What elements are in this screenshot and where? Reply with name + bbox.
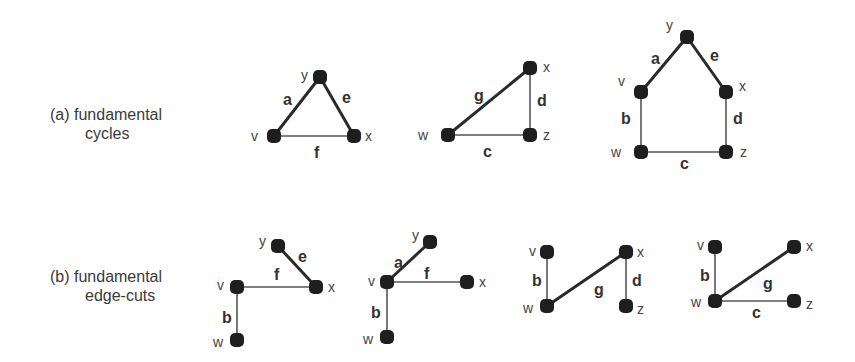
graph-cycle-3: aebdcyvxwz — [610, 17, 747, 172]
edge-e — [320, 77, 354, 136]
vertex-label-z: z — [806, 296, 813, 312]
edge-label-e: e — [710, 47, 719, 64]
vertex-y — [680, 30, 694, 44]
graph-cut-2: afbyvxw — [362, 227, 486, 347]
graphs-canvas: aefyvxgdcxwzaebdcyvxwzefbyxvwafbyvxwbgdv… — [0, 0, 855, 362]
edge-e — [687, 37, 726, 92]
edge-label-g: g — [474, 87, 484, 104]
edge-g — [547, 252, 626, 306]
vertex-label-w: w — [362, 331, 374, 347]
vertex-label-z: z — [740, 144, 747, 160]
edge-g — [448, 68, 530, 135]
vertex-y — [271, 239, 285, 253]
edge-label-c: c — [752, 304, 761, 321]
edge-label-d: d — [537, 92, 547, 109]
edge-label-a: a — [394, 254, 403, 271]
edge-label-b: b — [700, 267, 710, 284]
edge-label-c: c — [483, 143, 492, 160]
edge-label-b: b — [621, 110, 631, 127]
edge-label-f: f — [424, 265, 430, 282]
vertex-label-x: x — [479, 274, 486, 290]
vertex-label-y: y — [301, 67, 308, 83]
edge-label-e: e — [298, 248, 307, 265]
vertex-label-v: v — [618, 73, 625, 89]
vertex-label-w: w — [212, 334, 224, 350]
vertex-x — [309, 280, 323, 294]
vertex-label-v: v — [368, 273, 375, 289]
edge-a — [274, 77, 320, 136]
vertex-x — [719, 85, 733, 99]
vertex-z — [719, 145, 733, 159]
edge-label-f: f — [314, 144, 320, 161]
vertex-y — [313, 70, 327, 84]
vertex-w — [441, 128, 455, 142]
graph-cycle-2: gdcxwz — [417, 59, 550, 160]
vertex-v — [540, 245, 554, 259]
vertex-z — [787, 294, 801, 308]
vertex-v — [634, 85, 648, 99]
edge-e — [278, 246, 316, 287]
edge-label-d: d — [632, 272, 642, 289]
edge-label-e: e — [342, 89, 351, 106]
vertex-label-w: w — [417, 127, 429, 143]
vertex-label-z: z — [543, 127, 550, 143]
vertex-label-x: x — [739, 78, 746, 94]
vertex-v — [380, 275, 394, 289]
vertex-label-v: v — [529, 243, 536, 259]
vertex-v — [267, 129, 281, 143]
vertex-label-w: w — [522, 300, 534, 316]
edge-a — [641, 37, 687, 92]
vertex-x — [460, 275, 474, 289]
vertex-x — [523, 61, 537, 75]
edge-label-a: a — [283, 91, 292, 108]
vertex-label-x: x — [328, 279, 335, 295]
vertex-label-x: x — [543, 59, 550, 75]
graph-cycle-1: aefyvx — [251, 67, 372, 161]
vertex-label-x: x — [365, 128, 372, 144]
vertex-label-w: w — [610, 144, 622, 160]
vertex-x — [787, 240, 801, 254]
vertex-label-w: w — [690, 294, 702, 310]
vertex-y — [423, 235, 437, 249]
edge-label-b: b — [532, 272, 542, 289]
vertex-x — [347, 129, 361, 143]
vertex-v — [230, 280, 244, 294]
vertex-w — [540, 299, 554, 313]
fundamental-cycles-edgecuts-diagram: (a) fundamental cycles (b) fundamental e… — [0, 0, 855, 362]
vertex-w — [634, 145, 648, 159]
vertex-label-x: x — [806, 238, 813, 254]
vertex-w — [230, 333, 244, 347]
edge-label-b: b — [371, 304, 381, 321]
graph-cut-4: bgcvxwz — [690, 237, 813, 321]
vertex-label-v: v — [251, 128, 258, 144]
edge-label-b: b — [222, 309, 232, 326]
vertex-z — [619, 299, 633, 313]
edge-label-c: c — [680, 155, 689, 172]
vertex-w — [380, 330, 394, 344]
edge-label-f: f — [274, 266, 280, 283]
vertex-label-y: y — [412, 227, 419, 243]
edge-label-d: d — [733, 110, 743, 127]
vertex-label-v: v — [217, 277, 224, 293]
vertex-label-v: v — [697, 237, 704, 253]
vertex-z — [523, 128, 537, 142]
edge-g — [715, 247, 794, 301]
edge-label-g: g — [594, 281, 604, 298]
vertex-label-y: y — [666, 17, 673, 33]
edge-label-a: a — [651, 50, 660, 67]
vertex-label-y: y — [259, 233, 266, 249]
vertex-v — [708, 240, 722, 254]
edge-label-g: g — [763, 275, 773, 292]
vertex-x — [619, 245, 633, 259]
vertex-label-x: x — [637, 244, 644, 260]
vertex-w — [708, 294, 722, 308]
graph-cut-1: efbyxvw — [212, 233, 335, 350]
graph-cut-3: bgdvxwz — [522, 243, 644, 317]
vertex-label-z: z — [637, 301, 644, 317]
